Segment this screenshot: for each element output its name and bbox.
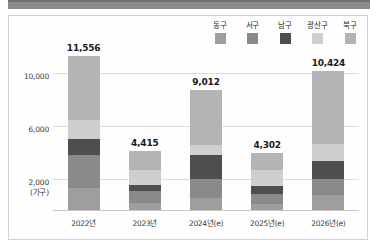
bar-group-2[interactable]: 9,012 <box>179 90 233 210</box>
bar-segment-북구 <box>251 153 283 170</box>
chart-figure-frame: 동구서구남구광산구북구 2,0006,00010,000(가구) 11,5564… <box>8 15 368 240</box>
bar-stack <box>251 153 283 210</box>
bar-group-4[interactable]: 10,424 <box>301 71 355 210</box>
bar-stack <box>68 56 100 210</box>
legend-item-2[interactable]: 남구 <box>270 21 300 44</box>
legend-label: 북구 <box>343 21 357 30</box>
bar-total-label: 10,424 <box>288 58 368 68</box>
bar-segment-동구 <box>68 188 100 210</box>
bar-stack <box>312 71 344 210</box>
bar-segment-북구 <box>129 151 161 169</box>
bar-total-label: 4,415 <box>105 138 185 148</box>
bar-group-0[interactable]: 11,556 <box>57 56 111 210</box>
bar-total-label: 9,012 <box>166 77 246 87</box>
x-label-0: 2022년 <box>49 219 119 228</box>
legend-label: 광산구 <box>307 21 327 30</box>
legend-swatch-gwangsangu <box>312 33 323 44</box>
bar-segment-서구 <box>251 194 283 204</box>
bar-segment-서구 <box>312 179 344 196</box>
bar-total-label: 4,302 <box>227 140 307 150</box>
y-axis-unit-label: (가구) <box>9 189 49 197</box>
bar-segment-광산구 <box>251 170 283 186</box>
bar-stack <box>129 151 161 210</box>
bar-segment-북구 <box>190 90 222 145</box>
y-tick-6000: 6,000 <box>9 126 49 134</box>
bar-stack <box>190 90 222 210</box>
x-label-1: 2023년 <box>110 219 180 228</box>
bar-segment-남구 <box>68 139 100 156</box>
top-dark-strip <box>8 0 370 9</box>
legend-item-0[interactable]: 동구 <box>205 21 235 44</box>
bar-segment-광산구 <box>68 120 100 139</box>
legend-label: 남구 <box>278 21 292 30</box>
plot-area: 11,5564,4159,0124,30210,424 <box>53 46 359 211</box>
bar-segment-남구 <box>312 161 344 179</box>
legend-swatch-donggu <box>215 33 226 44</box>
bar-segment-서구 <box>129 191 161 203</box>
bar-segment-북구 <box>68 56 100 119</box>
bar-segment-서구 <box>190 179 222 198</box>
bar-segment-남구 <box>251 186 283 193</box>
x-axis-labels: 2022년2023년2024년(e)2025년(e)2026년(e) <box>53 215 359 235</box>
legend-swatch-bukgu <box>345 33 356 44</box>
bar-segment-광산구 <box>129 170 161 186</box>
bar-segment-남구 <box>190 155 222 178</box>
bar-segment-동구 <box>190 198 222 210</box>
bar-segment-서구 <box>68 155 100 188</box>
bar-series-container: 11,5564,4159,0124,30210,424 <box>53 46 359 211</box>
y-axis: 2,0006,00010,000(가구) <box>9 46 49 221</box>
legend-label: 동구 <box>213 21 227 30</box>
bar-segment-동구 <box>312 195 344 210</box>
bar-total-label: 11,556 <box>44 43 124 53</box>
legend-swatch-namgu <box>280 33 291 44</box>
legend-label: 서구 <box>246 21 260 30</box>
bar-segment-동구 <box>129 203 161 210</box>
x-label-2: 2024년(e) <box>171 219 241 228</box>
x-label-4: 2026년(e) <box>293 219 363 228</box>
bar-segment-광산구 <box>190 145 222 155</box>
x-label-3: 2025년(e) <box>232 219 302 228</box>
bar-segment-광산구 <box>312 144 344 161</box>
bar-group-1[interactable]: 4,415 <box>118 151 172 210</box>
y-tick-10000: 10,000 <box>9 73 49 81</box>
bar-group-3[interactable]: 4,302 <box>240 153 294 210</box>
bar-segment-동구 <box>251 204 283 210</box>
legend-swatch-seogu <box>247 33 258 44</box>
chart-screenshot: 동구서구남구광산구북구 2,0006,00010,000(가구) 11,5564… <box>0 0 378 248</box>
legend-item-1[interactable]: 서구 <box>238 21 268 44</box>
legend-item-3[interactable]: 광산구 <box>303 21 333 44</box>
bar-segment-북구 <box>312 71 344 143</box>
y-tick-2000: 2,000 <box>9 179 49 187</box>
legend-item-4[interactable]: 북구 <box>335 21 365 44</box>
